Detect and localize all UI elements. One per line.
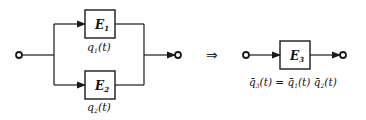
equivalent-output-terminal	[340, 52, 346, 58]
input-terminal	[16, 52, 22, 58]
implies-arrow-icon: ⇒	[206, 47, 218, 63]
reliability-q2-label: q2(t)	[87, 101, 111, 114]
reliability-q1-label: q1(t)	[87, 41, 111, 54]
block-e2-label: E2	[94, 79, 109, 94]
output-terminal	[175, 52, 181, 58]
equivalent-input-terminal	[243, 52, 249, 58]
block-e1-label: E1	[94, 18, 109, 33]
parallel-to-equivalent-diagram: E1 E2 q1(t) q2(t) ⇒ E3 q̄3(t) = q̄1(t) q…	[0, 0, 366, 120]
equivalent-reliability-formula: q̄3(t) = q̄1(t) q̄2(t)	[249, 76, 337, 89]
block-e3-label: E3	[289, 49, 304, 64]
